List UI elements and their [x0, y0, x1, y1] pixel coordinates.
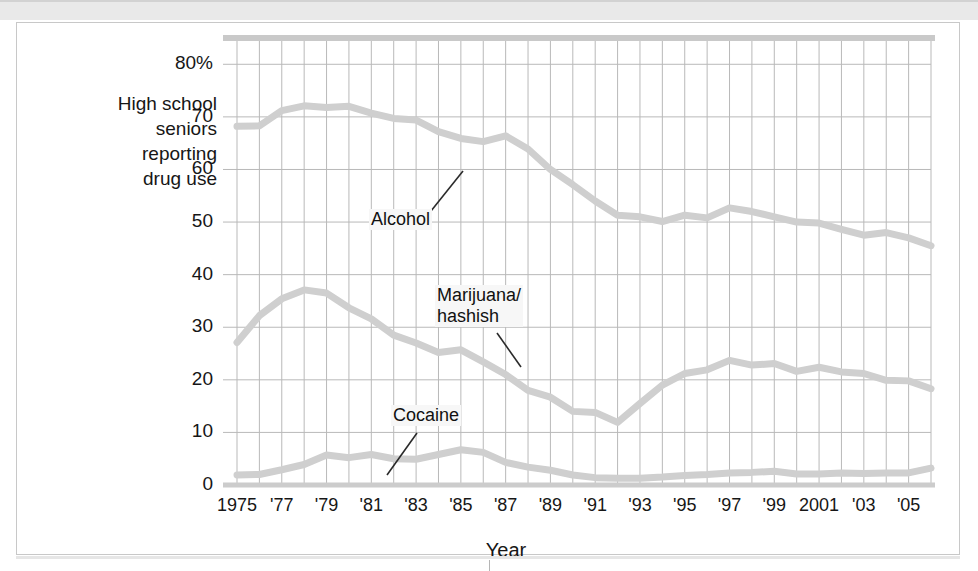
y-tick-label: 30: [151, 315, 213, 337]
series-annotation-marijuana: Marijuana/ hashish: [435, 285, 523, 327]
figure-bottom-shadow: [16, 556, 960, 559]
y-tick-label: 50: [151, 210, 213, 232]
y-tick-label: 80%: [151, 52, 213, 74]
x-tick-label: '05: [877, 495, 941, 516]
series-annotation-alcohol: Alcohol: [369, 209, 432, 230]
y-tick-label: 60: [151, 157, 213, 179]
y-tick-label: 70: [151, 105, 213, 127]
data-series-group: [237, 106, 931, 478]
figure-frame: High school seniors reporting drug use 0…: [16, 22, 960, 555]
y-tick-label: 10: [151, 420, 213, 442]
page-fold-tick: [489, 560, 490, 571]
y-tick-label: 20: [151, 368, 213, 390]
series-annotation-cocaine: Cocaine: [391, 405, 461, 426]
y-tick-label: 0: [151, 473, 213, 495]
scan-artifact-hairline: [0, 0, 978, 2]
y-tick-label: 40: [151, 263, 213, 285]
horizontal-gridlines: [223, 64, 931, 485]
scan-artifact-band: [0, 0, 978, 20]
